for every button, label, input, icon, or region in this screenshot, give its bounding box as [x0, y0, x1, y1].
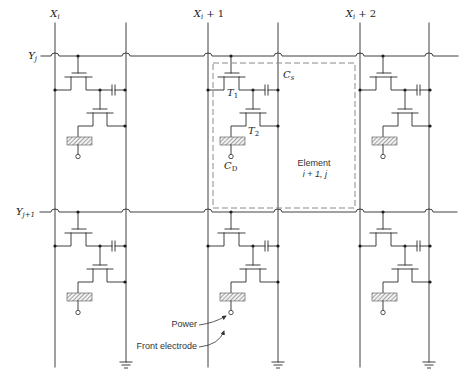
column-label-xi2: Xi + 2 [345, 8, 376, 21]
label-transistor-t1: T1 [227, 87, 238, 100]
pixel-cell-r2-c1 [53, 210, 126, 314]
pixel-cell-r2-c3 [358, 210, 431, 314]
ground-icon [272, 362, 284, 368]
row-label-yj: Yj [28, 50, 38, 63]
pixel-cell-r1-c1 [53, 54, 126, 158]
element-boundary [213, 63, 355, 208]
element-index-label: i + 1, j [303, 169, 328, 179]
schematic-svg: Xi Xi + 1 Xi + 2 Yj Yj+1 Cs T1 T2 CD Ele… [0, 0, 466, 378]
pixel-cell-r1-c3 [358, 54, 431, 158]
front-electrode-label: Front electrode [136, 341, 197, 351]
column-label-xi: Xi [49, 8, 59, 21]
row-label-yj1: Yj+1 [16, 206, 35, 219]
pixel-cell-r1-c2 [206, 54, 279, 158]
power-arrow-icon [199, 316, 226, 325]
ground-icon [120, 362, 132, 368]
element-label: Element [297, 158, 331, 168]
front-electrode-arrow-icon [199, 331, 224, 347]
pixel-cell-r2-c2 [206, 210, 279, 314]
row-line-yj [41, 53, 458, 56]
row-line-yj1 [40, 209, 457, 212]
power-label: Power [171, 319, 197, 329]
label-display-capacitor: CD [224, 160, 238, 173]
ground-icon [423, 362, 435, 368]
active-matrix-circuit-diagram: Xi Xi + 1 Xi + 2 Yj Yj+1 Cs T1 T2 CD Ele… [0, 0, 466, 378]
label-storage-capacitor: Cs [283, 69, 295, 82]
label-transistor-t2: T2 [248, 125, 259, 138]
column-label-xi1: Xi + 1 [193, 8, 224, 21]
